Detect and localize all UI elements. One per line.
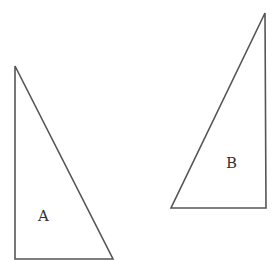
triangles-diagram: A B	[0, 0, 275, 260]
triangle-a	[15, 66, 113, 259]
triangle-a-label: A	[37, 207, 49, 225]
triangle-b-label: B	[226, 154, 237, 172]
triangle-b	[171, 13, 266, 208]
